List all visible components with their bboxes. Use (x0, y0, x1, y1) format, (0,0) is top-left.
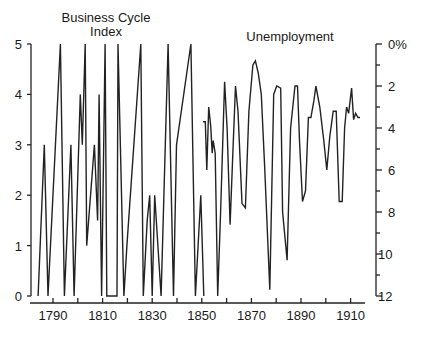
x-tick-label: 1830 (138, 308, 167, 323)
right-tick-label: 6 (388, 163, 395, 178)
right-tick-label: 8 (388, 205, 395, 220)
left-tick-label: 4 (15, 87, 22, 102)
right-tick-label: 2 (388, 79, 395, 94)
business-cycle-line (38, 44, 204, 296)
left-tick-label: 0 (15, 289, 22, 304)
x-tick-label: 1870 (237, 308, 266, 323)
right-tick-label: 10 (378, 247, 392, 262)
unemployment-title: Unemployment (246, 29, 334, 44)
right-tick-label: 12 (378, 289, 392, 304)
left-tick-label: 2 (15, 188, 22, 203)
unemployment-line (203, 61, 360, 296)
business-cycle-title-line2: Index (90, 24, 122, 39)
x-tick-label: 1910 (336, 308, 365, 323)
left-tick-label: 1 (15, 239, 22, 254)
right-y-axis: 0%24681012 (376, 37, 407, 304)
left-tick-label: 5 (15, 37, 22, 52)
x-tick-label: 1810 (88, 308, 117, 323)
business-cycle-title-line1: Business Cycle (62, 10, 151, 25)
x-tick-label: 1790 (39, 308, 68, 323)
x-axis: 1790181018301850187018901910 (30, 298, 365, 323)
x-tick-label: 1850 (187, 308, 216, 323)
x-tick-label: 1890 (287, 308, 316, 323)
left-tick-label: 3 (15, 138, 22, 153)
dual-axis-line-chart: Business Cycle Index Unemployment 012345… (0, 0, 422, 337)
left-y-axis: 012345 (15, 37, 31, 304)
right-tick-label: 4 (388, 121, 395, 136)
right-tick-label: 0% (388, 37, 407, 52)
